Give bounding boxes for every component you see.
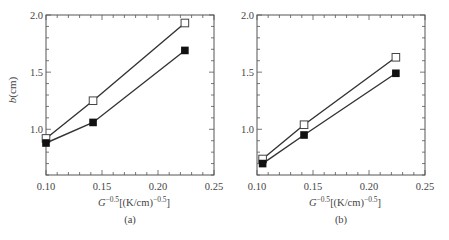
x-tick-label: 0.10: [37, 181, 55, 192]
x-label-exp: −0.5: [106, 195, 120, 204]
x-label-close: ]: [378, 197, 382, 208]
x-tick-label: 0.20: [360, 181, 378, 192]
open-square-marker: [300, 121, 308, 129]
x-label-close: ]: [167, 197, 171, 208]
y-tick-label: 1.5: [30, 67, 43, 78]
series-line: [46, 50, 185, 143]
series-line: [263, 57, 396, 159]
series-line: [263, 73, 396, 163]
y-tick-label: 2.0: [30, 10, 43, 21]
series-filled-squares: [259, 69, 400, 167]
y-tick-label: 1.5: [241, 67, 254, 78]
filled-square-marker: [259, 160, 267, 168]
open-square-marker: [392, 53, 400, 61]
plot-frame: [257, 15, 425, 175]
open-square-marker: [181, 19, 189, 27]
x-label-unit-exp: −0.5: [153, 195, 167, 204]
series-open-squares: [259, 53, 400, 162]
panel-caption: (a): [124, 214, 136, 226]
tick-marks: [257, 15, 425, 175]
y-axis-label: b(cm): [6, 77, 19, 104]
x-label-unit-exp: −0.5: [364, 195, 378, 204]
x-axis-label: G−0.5[(K/cm)−0.5]: [98, 195, 170, 209]
x-tick-label: 0.25: [416, 181, 434, 192]
figure: 0.100.150.200.251.01.52.0G−0.5[(K/cm)−0.…: [0, 0, 449, 240]
x-label-exp: −0.5: [317, 195, 331, 204]
panel-a-chart: 0.100.150.200.251.01.52.0G−0.5[(K/cm)−0.…: [6, 10, 223, 226]
chart-canvas: 0.100.150.200.251.01.52.0G−0.5[(K/cm)−0.…: [0, 0, 449, 240]
x-axis-label: G−0.5[(K/cm)−0.5]: [309, 195, 381, 209]
y-tick-label: 1.0: [30, 124, 43, 135]
plot-frame: [46, 15, 214, 175]
x-label-unit: [(K/cm): [119, 197, 153, 209]
x-tick-label: 0.15: [93, 181, 111, 192]
filled-square-marker: [42, 139, 50, 147]
filled-square-marker: [300, 131, 308, 139]
y-tick-label: 2.0: [241, 10, 254, 21]
x-tick-label: 0.15: [304, 181, 322, 192]
filled-square-marker: [392, 69, 400, 77]
series-open-squares: [42, 19, 188, 142]
y-label-unit: (cm): [6, 77, 19, 98]
series-line: [46, 23, 185, 138]
filled-square-marker: [89, 119, 97, 127]
panel-caption: (b): [335, 214, 348, 226]
panel-b-chart: 0.100.150.200.251.01.52.0G−0.5[(K/cm)−0.…: [241, 10, 434, 226]
series-filled-squares: [42, 47, 188, 147]
x-label-unit: [(K/cm): [330, 197, 364, 209]
x-tick-label: 0.20: [149, 181, 167, 192]
y-tick-label: 1.0: [241, 124, 254, 135]
tick-marks: [46, 15, 214, 175]
filled-square-marker: [181, 47, 189, 55]
x-tick-label: 0.25: [205, 181, 223, 192]
open-square-marker: [89, 97, 97, 105]
x-tick-label: 0.10: [248, 181, 266, 192]
